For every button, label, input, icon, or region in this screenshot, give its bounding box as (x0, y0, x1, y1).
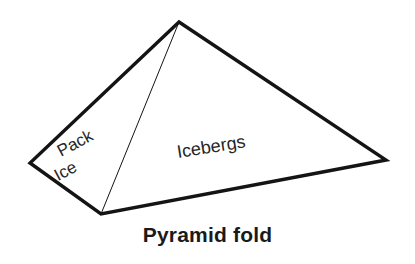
figure-page: Pack Ice Icebergs Pyramid fold (0, 0, 415, 264)
figure-caption: Pyramid fold (0, 222, 415, 248)
